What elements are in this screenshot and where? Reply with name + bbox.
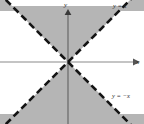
y-axis-label: y <box>64 2 67 9</box>
graph-figure: y x y = x y = −x <box>0 0 144 124</box>
line-label-y-equals-x: y = x <box>113 3 126 10</box>
shaded-region-lower-fill <box>0 114 144 124</box>
shaded-region-lower-main <box>0 62 144 118</box>
coordinate-plane-svg <box>0 0 144 124</box>
x-axis-label: x <box>136 59 139 66</box>
shaded-region-upper-main <box>0 6 144 62</box>
line-label-y-equals-negative-x: y = −x <box>112 93 130 100</box>
